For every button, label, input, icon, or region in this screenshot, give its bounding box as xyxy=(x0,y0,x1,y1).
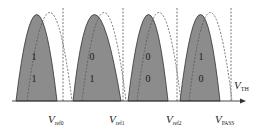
distribution-state-0 xyxy=(16,15,57,102)
distribution-state-1 xyxy=(73,15,121,102)
state-2-lower-bit: 0 xyxy=(146,73,151,84)
state-0-upper-bit: 1 xyxy=(32,51,37,62)
vth-distribution-diagram: 1 1 0 1 0 0 1 0 VTH Vref0 Vref1 Vref2 VP… xyxy=(0,0,256,134)
label-vref2: Vref2 xyxy=(166,113,182,126)
state-1-upper-bit: 0 xyxy=(90,51,95,62)
label-vref1: Vref1 xyxy=(109,113,125,126)
axis-label-vth: VTH xyxy=(234,79,249,92)
label-vref0: Vref0 xyxy=(48,113,64,126)
state-0-lower-bit: 1 xyxy=(32,73,37,84)
state-2-upper-bit: 0 xyxy=(146,51,151,62)
state-3-lower-bit: 0 xyxy=(199,73,204,84)
axis-arrow-icon xyxy=(240,99,246,104)
state-1-lower-bit: 1 xyxy=(90,73,95,84)
state-3-upper-bit: 1 xyxy=(199,51,204,62)
label-vpass: VPASS xyxy=(215,113,234,126)
filled-distributions xyxy=(16,15,220,102)
